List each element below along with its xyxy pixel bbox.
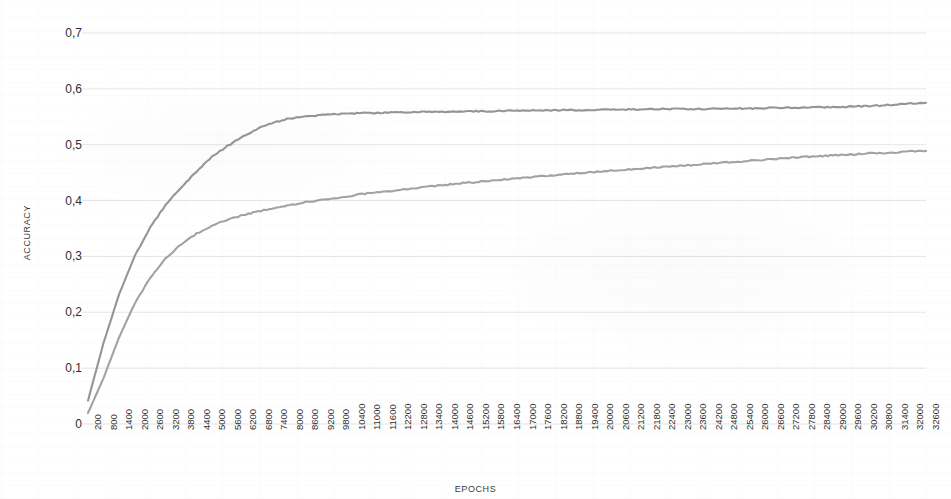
x-tick-label: 24800	[728, 404, 739, 430]
x-tick-label: 24200	[713, 404, 724, 430]
x-tick-label: 23000	[682, 404, 693, 430]
y-axis-title: ACCURACY	[22, 205, 32, 260]
x-tick-label: 30800	[883, 404, 894, 430]
x-tick-label: 28400	[821, 404, 832, 430]
x-tick-label: 200	[92, 414, 103, 430]
x-tick-label: 17000	[527, 404, 538, 430]
x-tick-label: 27800	[806, 404, 817, 430]
x-tick-label: 7400	[278, 409, 289, 430]
x-tick-label: 26600	[775, 404, 786, 430]
x-tick-label: 800	[108, 414, 119, 430]
x-tick-label: 6200	[247, 409, 258, 430]
x-tick-label: 27200	[790, 404, 801, 430]
x-tick-label: 31400	[899, 404, 910, 430]
x-tick-label: 15200	[480, 404, 491, 430]
x-tick-label: 11000	[371, 404, 382, 430]
x-tick-label: 25400	[744, 404, 755, 430]
x-tick-label: 6800	[263, 409, 274, 430]
x-tick-label: 3800	[185, 409, 196, 430]
x-tick-label: 11600	[387, 404, 398, 430]
x-tick-label: 26000	[759, 404, 770, 430]
x-axis-tick-labels: 2008001400200026003200380044005000560062…	[0, 0, 951, 499]
x-tick-label: 12200	[402, 404, 413, 430]
x-tick-label: 8000	[294, 409, 305, 430]
x-tick-label: 5600	[232, 409, 243, 430]
x-tick-label: 14000	[449, 404, 460, 430]
x-tick-label: 14600	[464, 404, 475, 430]
x-tick-label: 20000	[604, 404, 615, 430]
x-tick-label: 4400	[201, 409, 212, 430]
x-tick-label: 32000	[914, 404, 925, 430]
x-tick-label: 5000	[216, 409, 227, 430]
accuracy-vs-epochs-chart: 0,70,60,50,40,30,20,10 20080014002000260…	[0, 0, 951, 499]
x-tick-label: 21800	[651, 404, 662, 430]
x-tick-label: 32600	[930, 404, 941, 430]
x-tick-label: 18800	[573, 404, 584, 430]
x-axis-title: EPOCHS	[0, 484, 951, 494]
x-tick-label: 2600	[154, 409, 165, 430]
x-tick-label: 30200	[868, 404, 879, 430]
x-tick-label: 13400	[433, 404, 444, 430]
x-tick-label: 18200	[558, 404, 569, 430]
x-tick-label: 15800	[495, 404, 506, 430]
x-tick-label: 12800	[418, 404, 429, 430]
x-tick-label: 16400	[511, 404, 522, 430]
x-tick-label: 29600	[852, 404, 863, 430]
x-tick-label: 3200	[170, 409, 181, 430]
x-tick-label: 20600	[620, 404, 631, 430]
x-tick-label: 1400	[123, 409, 134, 430]
x-tick-label: 29000	[837, 404, 848, 430]
x-tick-label: 23600	[697, 404, 708, 430]
x-tick-label: 17600	[542, 404, 553, 430]
x-tick-label: 21200	[635, 404, 646, 430]
x-tick-label: 10400	[356, 404, 367, 430]
x-tick-label: 19400	[589, 404, 600, 430]
x-tick-label: 2000	[139, 409, 150, 430]
x-tick-label: 9200	[325, 409, 336, 430]
x-tick-label: 9800	[340, 409, 351, 430]
x-tick-label: 8600	[309, 409, 320, 430]
x-tick-label: 22400	[666, 404, 677, 430]
